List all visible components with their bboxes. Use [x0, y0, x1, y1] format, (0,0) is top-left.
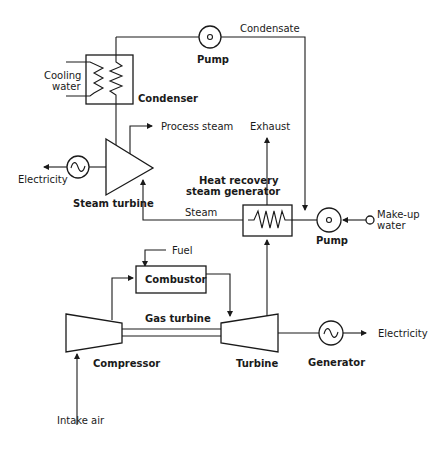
- steam-label: Steam: [185, 207, 217, 218]
- fuel-label: Fuel: [172, 245, 192, 256]
- generator-label: Generator: [308, 357, 365, 368]
- compressor-label: Compressor: [93, 358, 160, 369]
- compressor: [66, 314, 122, 352]
- turbine-label: Turbine: [236, 358, 278, 369]
- makeup-water-label-2: water: [377, 220, 406, 231]
- process-steam-label: Process steam: [161, 121, 233, 132]
- cooling-water-label: Cooling: [44, 70, 81, 81]
- chp-diagram: Cooling water Condenser Pump Condensate …: [0, 0, 440, 451]
- top-pump: [199, 26, 221, 48]
- cooling-water-label-2: water: [52, 81, 81, 92]
- exhaust-label: Exhaust: [250, 121, 290, 132]
- makeup-water-inlet: [366, 216, 374, 224]
- turbine: [221, 314, 278, 352]
- condenser-label: Condenser: [138, 93, 198, 104]
- bottom-pump: [317, 208, 341, 232]
- hrsg-label-2: steam generator: [186, 186, 280, 197]
- makeup-water-label: Make-up: [377, 209, 420, 220]
- electricity-right-label: Electricity: [378, 328, 428, 339]
- condensate-label: Condensate: [240, 23, 300, 34]
- steam-turbine-label: Steam turbine: [73, 198, 154, 209]
- combustor-label: Combustor: [145, 274, 207, 285]
- gas-turbine-label: Gas turbine: [145, 313, 211, 324]
- electricity-left-label: Electricity: [18, 174, 68, 185]
- generator: [319, 321, 343, 345]
- bottom-pump-label: Pump: [316, 235, 348, 246]
- intake-air-label: Intake air: [57, 415, 105, 426]
- steam-turbine-generator: [67, 156, 89, 178]
- heat-recovery-steam-generator: [243, 205, 292, 236]
- top-pump-label: Pump: [197, 54, 229, 65]
